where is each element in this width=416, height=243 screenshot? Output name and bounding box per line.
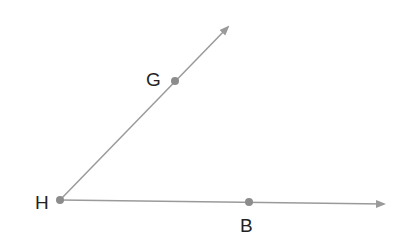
- label-g: G: [146, 69, 161, 90]
- label-b: B: [240, 215, 253, 236]
- point-h: [56, 196, 64, 204]
- point-g: [171, 77, 179, 85]
- diagram-svg: H G B: [0, 0, 416, 243]
- ray-hg: [60, 27, 228, 200]
- label-h: H: [35, 192, 49, 213]
- point-b: [245, 198, 253, 206]
- angle-diagram: H G B: [0, 0, 416, 243]
- ray-hb: [60, 200, 384, 204]
